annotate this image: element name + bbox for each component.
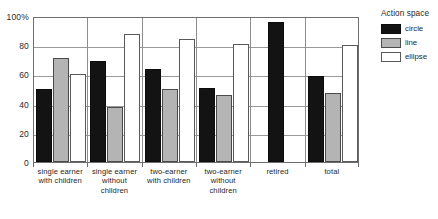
x-category-label-line: single earner [33, 167, 87, 176]
bar-line [53, 58, 69, 162]
bar-group [143, 18, 197, 162]
bar-line [216, 95, 232, 162]
bar-circle [199, 88, 215, 162]
x-tickmark [250, 163, 251, 167]
bar-circle [36, 89, 52, 162]
bar-ellipse [342, 45, 358, 162]
x-category-label: retired [250, 167, 304, 176]
x-category-label: single earnerwith children [33, 167, 87, 186]
legend-swatch-line [381, 38, 401, 48]
bar-circle [90, 61, 106, 162]
x-category-label-line: without children [87, 176, 141, 195]
legend: Action space circlelineellipse [381, 9, 438, 64]
legend-swatch-ellipse [381, 52, 401, 62]
bar-ellipse [124, 34, 140, 162]
legend-title: Action space [381, 9, 438, 19]
bar-line [162, 89, 178, 162]
y-tick-label: 0 [24, 159, 29, 168]
x-axis: single earnerwith childrensingle earnerw… [33, 167, 359, 207]
bar-circle [308, 76, 324, 162]
bars-layer [34, 18, 358, 162]
plot-area [33, 17, 359, 163]
x-category-label-line: two-earner [196, 167, 250, 176]
legend-item-ellipse[interactable]: ellipse [381, 50, 438, 63]
legend-items: circlelineellipse [381, 22, 438, 63]
bar-ellipse [70, 74, 86, 162]
bar-circle [145, 69, 161, 162]
y-axis: 100%806040200 [0, 0, 31, 219]
bar-ellipse [179, 39, 195, 162]
legend-label: ellipse [405, 52, 427, 61]
legend-item-circle[interactable]: circle [381, 22, 438, 35]
bar-group [197, 18, 251, 162]
x-category-label-line: with children [142, 176, 196, 185]
bar-chart-figure: 100%806040200 single earnerwith children… [0, 0, 438, 219]
x-category-label-line: without children [196, 176, 250, 195]
bar-line [107, 107, 123, 162]
x-tickmark [196, 163, 197, 167]
bar-group [34, 18, 88, 162]
y-tick-label: 40 [19, 100, 29, 109]
x-category-label: two-earnerwith children [142, 167, 196, 186]
legend-swatch-circle [381, 24, 401, 34]
bar-group [251, 18, 305, 162]
bar-group [306, 18, 360, 162]
bar-circle [268, 22, 284, 162]
x-category-label-line: with children [33, 176, 87, 185]
x-category-label: two-earnerwithout children [196, 167, 250, 195]
x-tickmark [33, 163, 34, 167]
x-tickmark [142, 163, 143, 167]
x-category-label: single earnerwithout children [87, 167, 141, 195]
legend-label: line [405, 38, 417, 47]
x-category-label-line: retired [250, 167, 304, 176]
x-category-label-line: single earner [87, 167, 141, 176]
bar-ellipse [233, 44, 249, 162]
x-category-label: total [305, 167, 359, 176]
y-tick-label: 100% [6, 13, 29, 22]
y-tick-label: 60 [19, 71, 29, 80]
y-tick-label: 80 [19, 42, 29, 51]
x-tickmark [305, 163, 306, 167]
y-tick-label: 20 [19, 130, 29, 139]
bar-group [88, 18, 142, 162]
x-tickmark [87, 163, 88, 167]
legend-item-line[interactable]: line [381, 36, 438, 49]
legend-label: circle [405, 24, 423, 33]
x-category-label-line: two-earner [142, 167, 196, 176]
x-tickmark [358, 163, 359, 167]
x-category-label-line: total [305, 167, 359, 176]
bar-line [325, 93, 341, 162]
